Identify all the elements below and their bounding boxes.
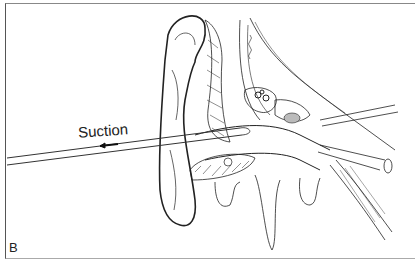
auricle: [159, 16, 205, 226]
suction-label: Suction: [77, 120, 128, 140]
nerve-bundle: [330, 160, 392, 240]
ear-canal-upper: [195, 126, 330, 150]
ear-canal-lower: [205, 153, 320, 170]
suction-arrow-icon: [100, 143, 118, 148]
panel-label: B: [9, 240, 18, 255]
cartilage: [205, 20, 230, 142]
ear-illustration: [0, 0, 416, 263]
